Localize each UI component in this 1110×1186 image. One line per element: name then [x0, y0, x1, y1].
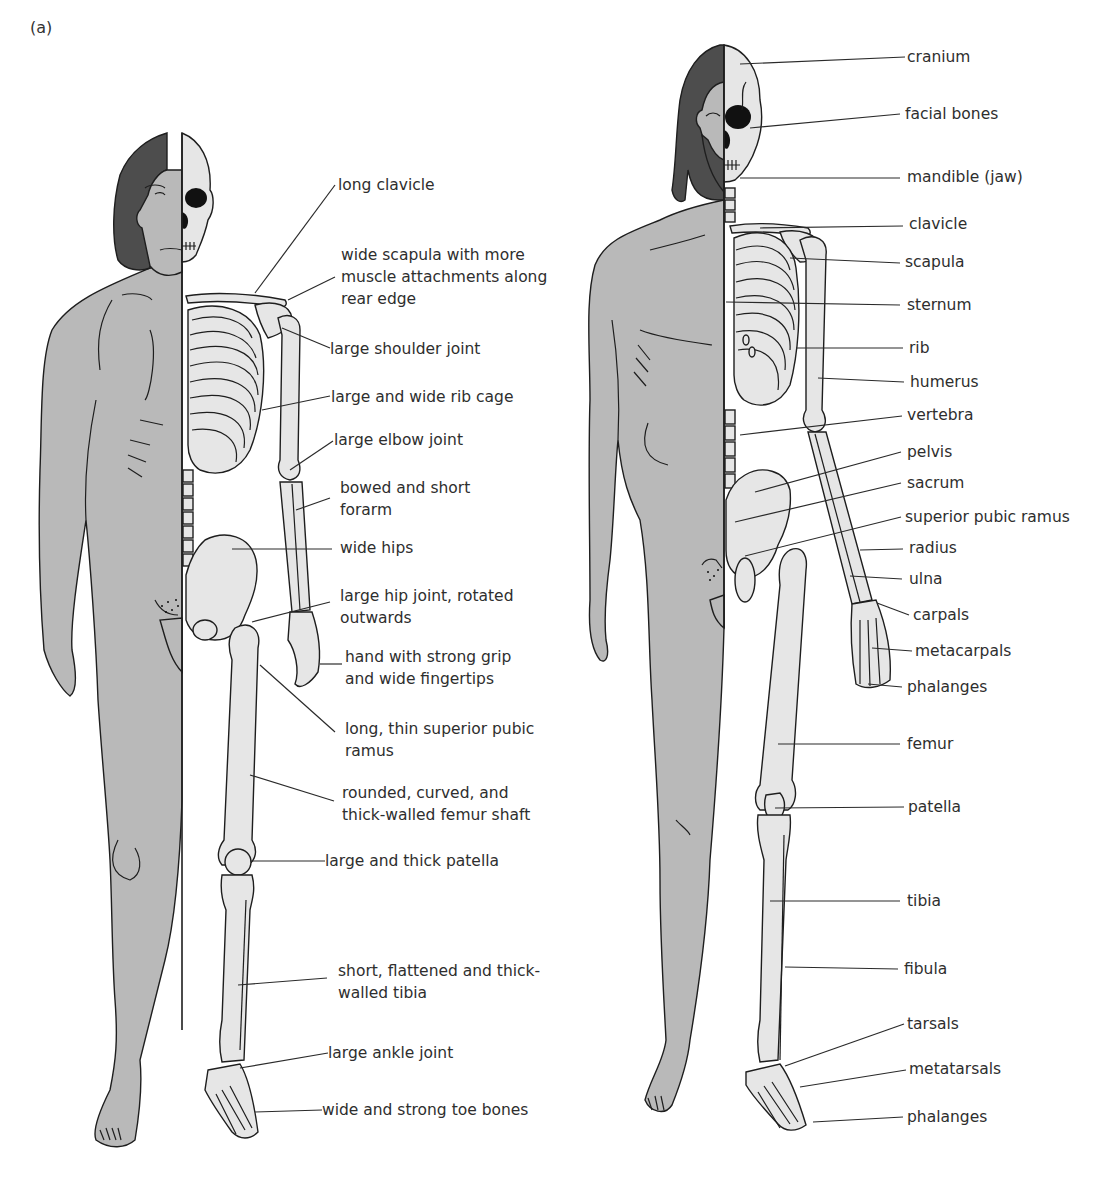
label-line: large ankle joint	[328, 1042, 453, 1064]
label-pelvis: pelvis	[907, 441, 952, 463]
right-humerus-bone	[800, 237, 826, 432]
label-line: femur	[907, 733, 953, 755]
skeleton-comparison-diagram: (a)	[0, 0, 1110, 1186]
label-large-hip-joint: large hip joint, rotated outwards	[340, 585, 514, 629]
label-radius: radius	[909, 537, 957, 559]
left-humerus-bone	[278, 316, 300, 480]
label-line: walled tibia	[338, 982, 540, 1004]
label-line: radius	[909, 537, 957, 559]
label-hand-strong-grip: hand with strong grip and wide fingertip…	[345, 646, 511, 690]
label-line: superior pubic ramus	[905, 506, 1070, 528]
left-body-skin	[39, 265, 182, 1147]
label-line: clavicle	[909, 213, 967, 235]
label-line: carpals	[913, 604, 969, 626]
left-femur-bone	[218, 625, 258, 865]
label-tibia: tibia	[907, 890, 941, 912]
label-phalanges-hand: phalanges	[907, 676, 987, 698]
label-line: hand with strong grip	[345, 646, 511, 668]
label-line: ramus	[345, 740, 534, 762]
label-line: phalanges	[907, 1106, 987, 1128]
label-line: ulna	[909, 568, 942, 590]
label-sacrum: sacrum	[907, 472, 964, 494]
label-line: muscle attachments along	[341, 266, 547, 288]
label-femur-shaft: rounded, curved, and thick-walled femur …	[342, 782, 530, 826]
left-forearm-bones	[280, 482, 310, 612]
label-cranium: cranium	[907, 46, 970, 68]
label-line: scapula	[905, 251, 965, 273]
right-body-skin	[589, 200, 724, 1111]
label-line: humerus	[910, 371, 979, 393]
right-figure	[589, 45, 912, 1130]
label-line: metacarpals	[915, 640, 1011, 662]
label-carpals: carpals	[913, 604, 969, 626]
label-line: bowed and short	[340, 477, 470, 499]
label-patella: patella	[908, 796, 961, 818]
label-line: mandible (jaw)	[907, 166, 1023, 188]
label-line: and wide fingertips	[345, 668, 511, 690]
label-humerus: humerus	[910, 371, 979, 393]
left-tibia-bone	[220, 875, 254, 1062]
label-fibula: fibula	[904, 958, 947, 980]
left-foot-bones	[205, 1064, 258, 1138]
left-figure	[39, 133, 342, 1147]
label-femur: femur	[907, 733, 953, 755]
label-line: sacrum	[907, 472, 964, 494]
label-metacarpals: metacarpals	[915, 640, 1011, 662]
right-tibia-bone	[757, 815, 790, 1062]
label-line: rounded, curved, and	[342, 782, 530, 804]
label-line: long clavicle	[338, 174, 435, 196]
label-wide-hips: wide hips	[340, 537, 413, 559]
label-line: tibia	[907, 890, 941, 912]
label-line: rear edge	[341, 288, 547, 310]
label-line: large elbow joint	[334, 429, 463, 451]
label-line: facial bones	[905, 103, 998, 125]
label-phalanges-foot: phalanges	[907, 1106, 987, 1128]
label-scapula: scapula	[905, 251, 965, 273]
label-wide-toe-bones: wide and strong toe bones	[322, 1099, 528, 1121]
label-line: large and thick patella	[325, 850, 499, 872]
label-bowed-short-forarm: bowed and short forarm	[340, 477, 470, 521]
label-long-thin-pubic-ramus: long, thin superior pubic ramus	[345, 718, 534, 762]
label-line: long, thin superior pubic	[345, 718, 534, 740]
right-hand-bones	[851, 600, 890, 687]
right-ribcage	[734, 233, 799, 405]
label-metatarsals: metatarsals	[909, 1058, 1001, 1080]
label-line: wide hips	[340, 537, 413, 559]
label-large-ankle-joint: large ankle joint	[328, 1042, 453, 1064]
label-rib: rib	[909, 337, 930, 359]
label-line: large hip joint, rotated	[340, 585, 514, 607]
label-line: pelvis	[907, 441, 952, 463]
label-line: rib	[909, 337, 930, 359]
label-ulna: ulna	[909, 568, 942, 590]
label-line: sternum	[907, 294, 972, 316]
label-line: fibula	[904, 958, 947, 980]
label-wide-scapula: wide scapula with more muscle attachment…	[341, 244, 547, 310]
label-line: forarm	[340, 499, 470, 521]
label-facial-bones: facial bones	[905, 103, 998, 125]
left-spine	[183, 470, 193, 566]
label-short-tibia: short, flattened and thick- walled tibia	[338, 960, 540, 1004]
left-patella-bone	[225, 849, 251, 875]
label-large-wide-rib-cage: large and wide rib cage	[331, 386, 513, 408]
label-line: large and wide rib cage	[331, 386, 513, 408]
right-femur-bone	[756, 549, 807, 810]
label-line: wide scapula with more	[341, 244, 547, 266]
label-line: tarsals	[907, 1013, 959, 1035]
label-sternum: sternum	[907, 294, 972, 316]
label-clavicle: clavicle	[909, 213, 967, 235]
label-line: vertebra	[907, 404, 973, 426]
label-mandible: mandible (jaw)	[907, 166, 1023, 188]
label-vertebra: vertebra	[907, 404, 973, 426]
label-line: thick-walled femur shaft	[342, 804, 530, 826]
label-tarsals: tarsals	[907, 1013, 959, 1035]
label-large-shoulder-joint: large shoulder joint	[330, 338, 480, 360]
label-superior-pubic-ramus: superior pubic ramus	[905, 506, 1070, 528]
left-ribcage	[188, 306, 264, 473]
label-long-clavicle: long clavicle	[338, 174, 435, 196]
right-forearm-bones	[808, 432, 872, 604]
label-line: phalanges	[907, 676, 987, 698]
label-large-thick-patella: large and thick patella	[325, 850, 499, 872]
label-line: wide and strong toe bones	[322, 1099, 528, 1121]
label-line: short, flattened and thick-	[338, 960, 540, 982]
left-hand-bones	[288, 612, 320, 686]
